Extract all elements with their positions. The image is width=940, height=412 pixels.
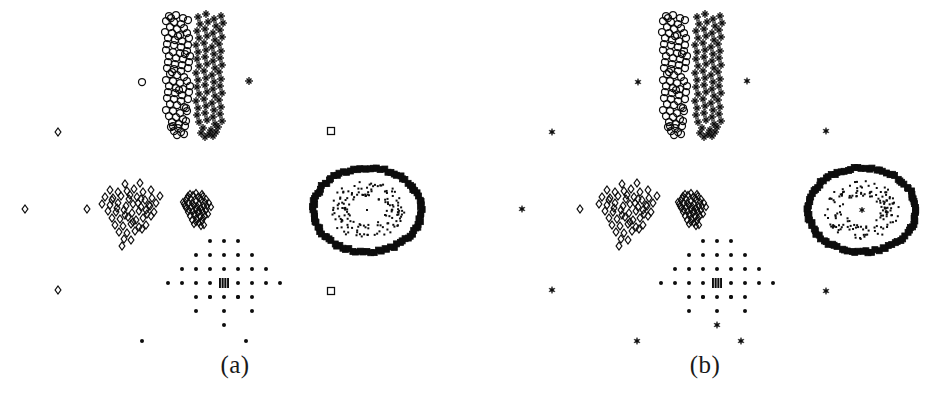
- series-circle-strip-outlier: [139, 79, 146, 86]
- panel-b-caption: (b): [470, 352, 940, 377]
- series-diamond-cluster-outlier-near: [577, 205, 583, 213]
- series-dot-lattice-outlier: [634, 322, 744, 345]
- series-dot-lattice-outlier: [140, 323, 248, 343]
- series-dot-lattice: [659, 239, 775, 313]
- series-circle-strip: [659, 12, 691, 139]
- figure-root: (a) (b): [0, 0, 940, 412]
- series-ring-center: [366, 209, 368, 211]
- scatter-plot-a: [0, 0, 470, 355]
- series-plus-strip-outlier: [744, 78, 750, 85]
- scatter-plot-b: [470, 0, 940, 355]
- panel-b: (b): [470, 0, 940, 412]
- series-dense-diamond-blob: [180, 190, 213, 230]
- series-plus-strip: [691, 10, 726, 141]
- series-dot-lattice-core: [219, 278, 229, 288]
- series-circle-strip-outlier: [635, 79, 641, 86]
- series-ring-center: [859, 207, 864, 213]
- series-plus-strip-outlier: [245, 77, 253, 85]
- series-ring-inner-scatter: [332, 181, 406, 237]
- scatter-canvas-a: [0, 0, 470, 355]
- series-circle-strip: [162, 12, 194, 139]
- series-plus-strip: [192, 10, 227, 141]
- series-diamond-cluster-outlier-star: [519, 129, 555, 294]
- series-diamond-cluster-outlier: [22, 128, 90, 294]
- panel-a: (a): [0, 0, 470, 412]
- series-diamond-cluster: [99, 179, 163, 250]
- panel-a-caption: (a): [0, 352, 470, 377]
- series-diamond-cluster: [596, 179, 660, 250]
- series-dense-diamond-blob: [675, 190, 708, 230]
- series-dot-lattice: [166, 239, 282, 313]
- series-ring-outlier: [823, 128, 829, 295]
- series-dot-lattice-core: [712, 278, 722, 288]
- scatter-canvas-b: [470, 0, 940, 355]
